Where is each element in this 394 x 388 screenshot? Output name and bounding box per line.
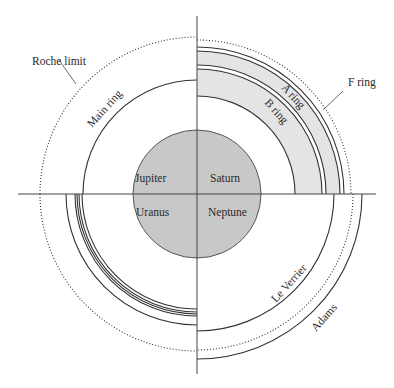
label-saturn: Saturn	[210, 172, 240, 184]
label-adams: Adams	[309, 301, 340, 334]
label-roche-limit: Roche limit	[32, 55, 87, 67]
label-main-ring: Main ring	[85, 87, 125, 130]
f-ring-leader	[323, 91, 343, 110]
planetary-rings-diagram: Jupiter Saturn Uranus Neptune Roche limi…	[0, 0, 394, 388]
label-neptune: Neptune	[208, 206, 247, 219]
label-le-verrier: Le Verrier	[269, 261, 309, 304]
label-uranus: Uranus	[136, 206, 170, 218]
label-jupiter: Jupiter	[135, 172, 166, 185]
label-f-ring: F ring	[348, 76, 376, 89]
